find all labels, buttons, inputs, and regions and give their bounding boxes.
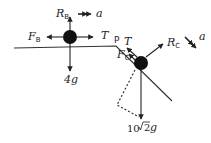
- force-diagram: RB a FB T 4g P RC a T FC 10: [0, 0, 211, 143]
- acceleration-b-label: a: [96, 7, 103, 20]
- acceleration-c-arrow: [185, 37, 196, 48]
- normal-force-b-label: RB: [55, 7, 69, 21]
- particle-c-group: RC a T FC 10 2 g: [116, 30, 206, 134]
- normal-force-c-label: RC: [166, 36, 180, 50]
- acceleration-c-label: a: [199, 30, 206, 43]
- svg-text:g: g: [150, 121, 157, 134]
- particle-c: [134, 56, 148, 70]
- weight-b-label: 4g: [63, 73, 78, 86]
- weight-c-label: 10 2 g: [127, 121, 157, 134]
- tension-b-label: T: [101, 29, 110, 42]
- normal-force-c-arrow: [146, 44, 163, 57]
- weight-component-dashed-lines: [117, 70, 139, 117]
- tension-c-label: T: [124, 35, 133, 48]
- edge-p-label: P: [114, 35, 120, 45]
- surface-line: [14, 46, 172, 101]
- friction-force-c-label: FC: [116, 48, 130, 62]
- friction-force-b-label: FB: [27, 30, 41, 44]
- particle-b: [63, 30, 77, 44]
- svg-text:10: 10: [127, 123, 140, 134]
